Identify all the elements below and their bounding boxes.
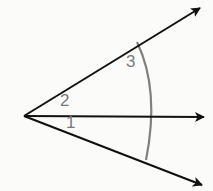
upper-ray [24, 8, 200, 116]
angle-label-1: 1 [66, 114, 75, 131]
diagram-svg [0, 0, 213, 191]
angle-diagram: 3 2 1 [0, 0, 213, 191]
angle-label-3: 3 [126, 53, 135, 70]
angle-label-2: 2 [60, 92, 69, 109]
middle-ray [24, 116, 204, 117]
angle-arc [137, 42, 151, 160]
lower-ray [24, 116, 202, 185]
